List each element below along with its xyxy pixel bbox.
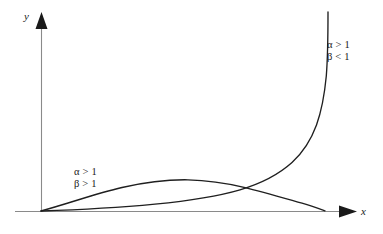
annotation-left-line-alpha: α > 1 (74, 166, 97, 178)
figure-root: y x α > 1 β < 1 α > 1 β > 1 (0, 0, 383, 234)
y-axis-label: y (24, 11, 29, 22)
y-axis-arrow-icon (36, 12, 48, 29)
annotation-alpha-gt1-beta-lt1: α > 1 β < 1 (327, 39, 350, 62)
annotation-right-line-alpha: α > 1 (327, 39, 350, 51)
annotation-alpha-gt1-beta-gt1: α > 1 β > 1 (74, 166, 97, 189)
plot-canvas (0, 0, 383, 234)
x-axis-arrow-icon (339, 206, 357, 218)
x-axis-label: x (361, 206, 366, 217)
annotation-right-line-beta: β < 1 (327, 51, 350, 63)
annotation-left-line-beta: β > 1 (74, 178, 97, 190)
